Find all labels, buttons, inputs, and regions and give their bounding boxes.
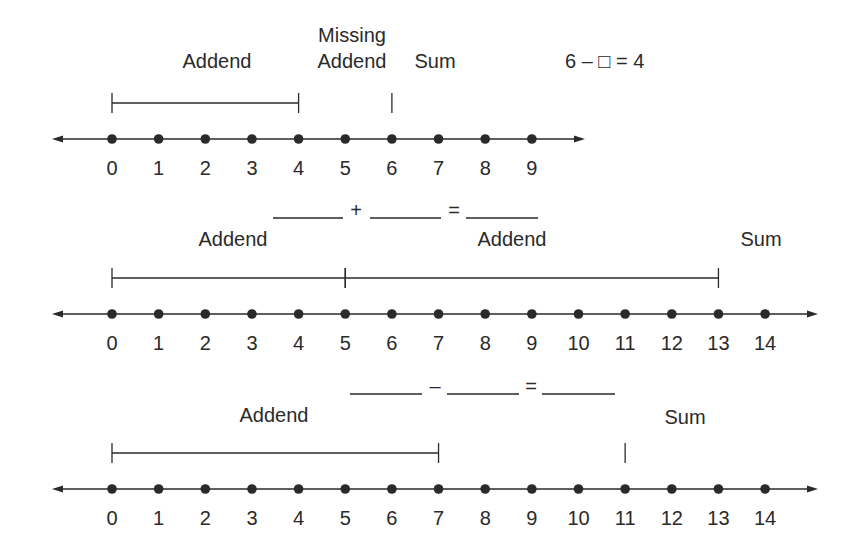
point-dot: [154, 134, 164, 144]
point-dot: [107, 484, 117, 494]
tick-label: 14: [754, 332, 776, 354]
equation-operator: +: [350, 199, 362, 221]
tick-label: 2: [200, 332, 211, 354]
term-label: Sum: [740, 228, 781, 250]
point-dot: [667, 309, 677, 319]
point-dot: [714, 484, 724, 494]
tick-label: 11: [615, 507, 636, 529]
tick-label: 9: [526, 332, 537, 354]
tick-label: 6: [386, 157, 397, 179]
tick-label: 9: [526, 157, 537, 179]
term-label: Addend: [318, 50, 387, 72]
number-line-row3: 01234567891011121314AddendSum–=: [52, 375, 818, 529]
tick-label: 4: [293, 332, 304, 354]
tick-label: 13: [707, 507, 729, 529]
tick-label: 10: [567, 507, 589, 529]
point-dot: [480, 134, 490, 144]
point-dot: [247, 484, 257, 494]
tick-label: 5: [340, 507, 351, 529]
tick-label: 13: [707, 332, 729, 354]
tick-label: 6: [386, 507, 397, 529]
tick-label: 1: [153, 157, 164, 179]
term-label: Addend: [183, 50, 252, 72]
equation-text: 6 – □ = 4: [565, 50, 644, 72]
point-dot: [527, 134, 537, 144]
point-dot: [294, 309, 304, 319]
point-dot: [434, 309, 444, 319]
point-dot: [760, 309, 770, 319]
arrow-right-icon: [807, 486, 818, 493]
term-label: Sum: [414, 50, 455, 72]
equation-operator: –: [429, 375, 441, 397]
point-dot: [340, 134, 350, 144]
tick-label: 1: [153, 332, 164, 354]
point-dot: [480, 309, 490, 319]
tick-label: 5: [340, 157, 351, 179]
equation-operator: =: [525, 375, 537, 397]
point-dot: [247, 309, 257, 319]
point-dot: [620, 484, 630, 494]
arrow-left-icon: [52, 311, 63, 318]
tick-label: 1: [153, 507, 164, 529]
equation-operator: =: [448, 199, 460, 221]
term-label: Addend: [240, 404, 309, 426]
point-dot: [294, 484, 304, 494]
number-line-row1: 0123456789AddendMissingAddendSum6 – □ = …: [52, 24, 644, 179]
tick-label: 2: [200, 507, 211, 529]
term-label: Sum: [664, 406, 705, 428]
tick-label: 2: [200, 157, 211, 179]
number-line-diagram: 0123456789AddendMissingAddendSum6 – □ = …: [0, 0, 860, 554]
tick-label: 4: [293, 157, 304, 179]
tick-label: 0: [106, 157, 117, 179]
point-dot: [574, 484, 584, 494]
point-dot: [340, 309, 350, 319]
tick-label: 4: [293, 507, 304, 529]
arrow-right-icon: [807, 311, 818, 318]
tick-label: 0: [106, 332, 117, 354]
point-dot: [294, 134, 304, 144]
point-dot: [107, 309, 117, 319]
point-dot: [201, 309, 211, 319]
tick-label: 14: [754, 507, 776, 529]
point-dot: [434, 134, 444, 144]
point-dot: [620, 309, 630, 319]
point-dot: [667, 484, 677, 494]
tick-label: 3: [246, 157, 257, 179]
point-dot: [760, 484, 770, 494]
tick-label: 3: [246, 507, 257, 529]
arrow-left-icon: [52, 486, 63, 493]
tick-label: 8: [480, 157, 491, 179]
point-dot: [247, 134, 257, 144]
point-dot: [434, 484, 444, 494]
number-line-row2: 01234567891011121314AddendAddendSum+=: [52, 199, 818, 354]
tick-label: 7: [433, 157, 444, 179]
tick-label: 7: [433, 332, 444, 354]
point-dot: [154, 484, 164, 494]
tick-label: 3: [246, 332, 257, 354]
point-dot: [480, 484, 490, 494]
tick-label: 12: [661, 507, 683, 529]
point-dot: [340, 484, 350, 494]
tick-label: 11: [615, 332, 636, 354]
point-dot: [201, 484, 211, 494]
tick-label: 12: [661, 332, 683, 354]
point-dot: [387, 134, 397, 144]
point-dot: [527, 309, 537, 319]
point-dot: [387, 484, 397, 494]
term-label: Addend: [199, 228, 268, 250]
tick-label: 5: [340, 332, 351, 354]
point-dot: [574, 309, 584, 319]
point-dot: [527, 484, 537, 494]
point-dot: [387, 309, 397, 319]
point-dot: [201, 134, 211, 144]
point-dot: [714, 309, 724, 319]
tick-label: 6: [386, 332, 397, 354]
point-dot: [107, 134, 117, 144]
arrow-right-icon: [574, 136, 585, 143]
tick-label: 9: [526, 507, 537, 529]
tick-label: 7: [433, 507, 444, 529]
tick-label: 10: [567, 332, 589, 354]
arrow-left-icon: [52, 136, 63, 143]
tick-label: 8: [480, 507, 491, 529]
point-dot: [154, 309, 164, 319]
